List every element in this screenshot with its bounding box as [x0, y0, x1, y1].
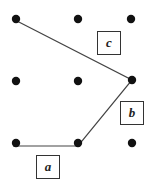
label-b-box: b — [120, 101, 144, 125]
grid-dot — [12, 15, 20, 23]
grid-dot — [128, 139, 136, 147]
label-c-box: c — [97, 31, 121, 55]
label-c-text: c — [106, 35, 112, 51]
grid-dot — [12, 139, 20, 147]
geoboard-diagram — [0, 0, 155, 187]
grid-dot — [74, 15, 82, 23]
label-b-text: b — [129, 105, 136, 121]
grid-dot — [74, 77, 82, 85]
label-a-text: a — [45, 159, 52, 175]
grid-dot — [127, 15, 135, 23]
grid-dot — [128, 76, 136, 84]
grid-dot — [74, 139, 82, 147]
label-a-box: a — [36, 155, 60, 179]
grid-dot — [12, 77, 20, 85]
